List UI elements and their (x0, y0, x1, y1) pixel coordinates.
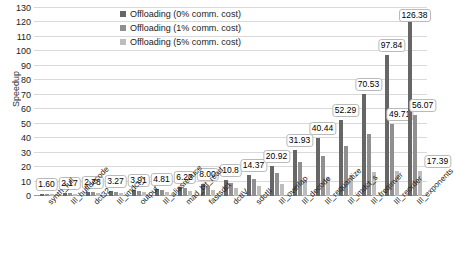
y-tick-label: 120 (16, 17, 31, 27)
bar-value-label: 40.44 (309, 122, 336, 135)
y-tick-label: 100 (16, 46, 31, 56)
bar (137, 191, 141, 196)
bar-group: 70.53 (357, 8, 380, 196)
bar (275, 173, 279, 196)
bar-group: 97.8449.71 (380, 8, 403, 196)
y-tick-label: 50 (21, 119, 31, 129)
bar-group: 20.92 (265, 8, 288, 196)
legend-item-label: Offloading (5% comm. cost) (130, 37, 241, 47)
bar (252, 179, 256, 196)
bar-value-label: 31.93 (286, 134, 313, 147)
bar (385, 55, 389, 196)
bar-group: 14.37 (242, 8, 265, 196)
y-tick-label: 80 (21, 75, 31, 85)
legend-item-0: Offloading (0% comm. cost) (120, 9, 241, 19)
bar (40, 194, 44, 196)
bar-value-label: 1.60 (35, 178, 58, 191)
x-axis-ticks: synth_fullIIl_huffdecodedct32IIl_imdct_l… (34, 198, 427, 271)
bar-group: 31.93 (288, 8, 311, 196)
bar (68, 193, 72, 196)
legend-item-label: Offloading (0% comm. cost) (130, 9, 241, 19)
bar-value-label: 52.29 (332, 104, 359, 117)
y-tick-label: 40 (21, 133, 31, 143)
bar-group: 2.17 (58, 8, 81, 196)
legend: Offloading (0% comm. cost) Offloading (1… (120, 9, 241, 47)
bar-value-label: 20.92 (263, 150, 290, 163)
y-tick-label: 0 (26, 191, 31, 201)
bar-value-label: 70.53 (355, 78, 382, 91)
legend-item-1: Offloading (1% comm. cost) (120, 23, 241, 33)
bar-group: 126.3856.0717.39 (403, 8, 426, 196)
y-tick-label: 70 (21, 90, 31, 100)
y-axis-ticks: 0102030405060708090100110120130 (0, 8, 34, 196)
bar-value-label: 56.07 (409, 99, 436, 112)
y-tick-label: 90 (21, 61, 31, 71)
y-tick-label: 20 (21, 162, 31, 172)
legend-item-label: Offloading (1% comm. cost) (130, 23, 241, 33)
bar-group: 1.60 (35, 8, 58, 196)
bar (160, 190, 164, 196)
legend-item-2: Offloading (5% comm. cost) (120, 37, 241, 47)
y-tick-label: 60 (21, 104, 31, 114)
y-tick-label: 30 (21, 148, 31, 158)
bar (114, 192, 118, 196)
y-tick-label: 110 (17, 32, 31, 42)
bar (45, 194, 49, 196)
bar-value-label: 126.38 (399, 9, 431, 22)
bar-group: 40.44 (311, 8, 334, 196)
bar-value-label: 97.84 (378, 39, 405, 52)
legend-swatch-icon (120, 25, 126, 31)
legend-swatch-icon (120, 11, 126, 17)
bar-value-label: 17.39 (424, 155, 451, 168)
legend-swatch-icon (120, 39, 126, 45)
y-tick-label: 130 (16, 3, 31, 13)
bar (91, 192, 95, 196)
y-tick-label: 10 (21, 177, 31, 187)
